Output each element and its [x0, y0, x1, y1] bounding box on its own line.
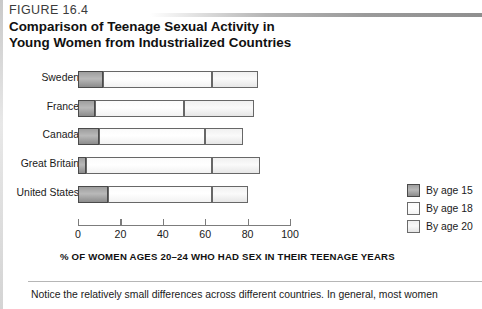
legend-swatch-by-age-18 — [407, 202, 420, 215]
bar-segment-by-age-18 — [108, 186, 212, 203]
bar-segment-by-age-15 — [78, 71, 103, 88]
figure-label: FIGURE 16.4 — [9, 3, 88, 17]
figure-caption: Notice the relatively small differences … — [31, 288, 481, 301]
x-axis-tick-label: 0 — [75, 228, 81, 240]
figure-title-line-1: Comparison of Teenage Sexual Activity in — [9, 19, 429, 35]
bar-row: Great Britain — [0, 157, 340, 174]
bar-category-label: Great Britain — [21, 158, 79, 169]
bar-segment-by-age-20 — [212, 186, 248, 203]
bar-segment-by-age-18 — [86, 157, 211, 174]
x-axis-tick — [205, 219, 206, 226]
x-axis-tick — [248, 219, 249, 226]
bar-segment-by-age-20 — [212, 157, 261, 174]
bar-category-label: France — [47, 101, 79, 112]
bar-row: Canada — [0, 128, 340, 145]
bar-category-label: United States — [17, 187, 79, 198]
legend-label-by-age-18: By age 18 — [426, 203, 473, 214]
bar-segment-by-age-20 — [212, 71, 259, 88]
legend-label-by-age-15: By age 15 — [426, 185, 473, 196]
x-axis-tick-label: 100 — [281, 228, 299, 240]
bar-segment-by-age-15 — [78, 100, 95, 117]
bar-track — [78, 128, 243, 145]
x-axis-tick — [290, 219, 291, 226]
x-axis-tick-label: 40 — [157, 228, 169, 240]
x-axis-tick-label: 60 — [199, 228, 211, 240]
bar-row: United States — [0, 186, 340, 203]
bar-segment-by-age-18 — [103, 71, 211, 88]
bar-chart: SwedenFranceCanadaGreat BritainUnited St… — [0, 66, 482, 256]
x-axis-tick — [78, 219, 79, 226]
bar-track — [78, 100, 254, 117]
bar-segment-by-age-15 — [78, 157, 86, 174]
bar-segment-by-age-20 — [184, 100, 254, 117]
legend-item[interactable]: By age 18 — [407, 200, 473, 217]
bar-track — [78, 186, 248, 203]
bar-row: Sweden — [0, 71, 340, 88]
figure-title: Comparison of Teenage Sexual Activity in… — [9, 19, 429, 52]
x-axis-line — [78, 225, 290, 226]
x-axis-title: % OF WOMEN AGES 20–24 WHO HAD SEX IN THE… — [60, 251, 395, 262]
legend-item[interactable]: By age 20 — [407, 218, 473, 235]
x-axis-tick-label: 80 — [242, 228, 254, 240]
x-axis-tick — [163, 219, 164, 226]
bar-segment-by-age-20 — [205, 128, 243, 145]
bar-track — [78, 71, 258, 88]
legend-swatch-by-age-15 — [407, 184, 420, 197]
bar-segment-by-age-15 — [78, 186, 108, 203]
bar-segment-by-age-18 — [99, 128, 205, 145]
footer-divider — [28, 281, 482, 282]
figure-title-line-2: Young Women from Industrialized Countrie… — [9, 35, 429, 51]
bar-track — [78, 157, 260, 174]
legend-item[interactable]: By age 15 — [407, 182, 473, 199]
bar-segment-by-age-18 — [95, 100, 184, 117]
x-axis-tick — [120, 219, 121, 226]
x-axis-tick-label: 20 — [114, 228, 126, 240]
legend-label-by-age-20: By age 20 — [426, 221, 473, 232]
bar-row: France — [0, 100, 340, 117]
bar-segment-by-age-15 — [78, 128, 99, 145]
bar-category-label: Canada — [43, 129, 79, 140]
legend-swatch-by-age-20 — [407, 220, 420, 233]
header-divider — [150, 13, 482, 17]
bar-category-label: Sweden — [41, 72, 79, 83]
chart-legend: By age 15 By age 18 By age 20 — [407, 182, 473, 236]
